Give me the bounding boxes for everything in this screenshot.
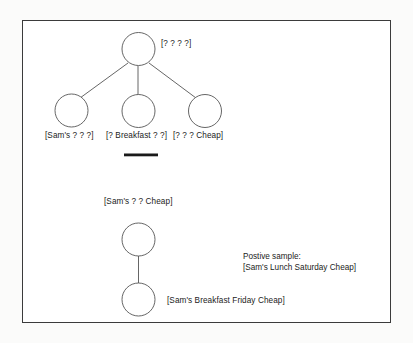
child-node-left[interactable] — [55, 94, 88, 127]
child-node-right-label: [? ? ? Cheap] — [173, 131, 223, 141]
child-node-middle-label: [? Breakfast ? ?] — [106, 131, 167, 141]
lower-bottom-node-label: [Sam's Breakfast Friday Cheap] — [167, 296, 285, 306]
upper-tree-edges — [80, 63, 196, 98]
child-node-middle[interactable] — [122, 95, 155, 128]
lower-top-node-label: [Sam's ? ? Cheap] — [104, 197, 173, 207]
lower-top-node[interactable] — [122, 223, 155, 256]
edge-root-to-right — [149, 63, 196, 98]
positive-sample-value: [Sam's Lunch Saturday Cheap] — [243, 262, 356, 273]
positive-sample-caption: Postive sample: [Sam's Lunch Saturday Ch… — [243, 251, 356, 273]
diagram-vector-layer — [0, 0, 413, 343]
child-node-right[interactable] — [189, 95, 222, 128]
figure-container: [? ? ? ?] [Sam's ? ? ?] [? Breakfast ? ?… — [0, 0, 413, 343]
root-node-label: [? ? ? ?] — [161, 39, 191, 49]
lower-bottom-node[interactable] — [122, 283, 155, 316]
child-node-left-label: [Sam's ? ? ?] — [45, 131, 94, 141]
edge-root-to-left — [80, 63, 128, 98]
horizontal-rule — [124, 154, 158, 157]
positive-sample-heading: Postive sample: — [243, 251, 356, 262]
root-node[interactable] — [122, 33, 155, 66]
